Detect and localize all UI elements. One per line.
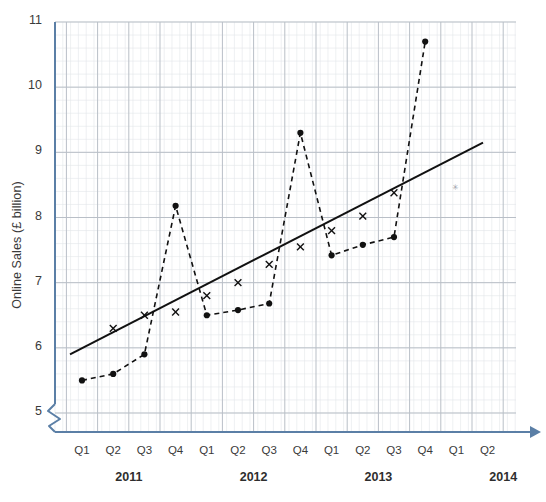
- series-actual-point: [173, 203, 179, 209]
- x-tick-label: Q1: [190, 444, 224, 456]
- series-actual-point: [422, 38, 428, 44]
- y-tick-label: 6: [8, 339, 42, 353]
- x-tick-label: Q3: [252, 444, 286, 456]
- series-trend-x-marker: [391, 189, 398, 196]
- series-actual-point: [297, 130, 303, 136]
- x-axis-year-label: 2011: [94, 470, 164, 484]
- chart-container: Online Sales (£ billion) ✳ 567891011 Q1Q…: [0, 0, 546, 502]
- x-tick-label: Q3: [377, 444, 411, 456]
- series-trend-x-marker: [172, 309, 179, 316]
- x-tick-label: Q3: [127, 444, 161, 456]
- chart-canvas: ✳: [0, 0, 546, 502]
- x-axis-arrow-icon: [530, 426, 541, 438]
- series-actual-point: [360, 242, 366, 248]
- x-tick-label: Q4: [408, 444, 442, 456]
- series-actual-point: [235, 307, 241, 313]
- x-tick-label: Q2: [471, 444, 505, 456]
- y-axis-break-icon: [48, 404, 60, 432]
- x-tick-label: Q1: [439, 444, 473, 456]
- series-actual-point: [391, 234, 397, 240]
- y-tick-label: 5: [8, 404, 42, 418]
- series-actual-point: [110, 371, 116, 377]
- series-trend-x-marker: [266, 261, 273, 268]
- x-axis-year-label: 2014: [468, 470, 538, 484]
- series-actual-point: [79, 377, 85, 383]
- y-tick-label: 9: [8, 143, 42, 157]
- series-actual-point: [204, 312, 210, 318]
- x-tick-label: Q2: [96, 444, 130, 456]
- x-axis-year-label: 2013: [343, 470, 413, 484]
- x-tick-label: Q4: [283, 444, 317, 456]
- series-trend-x-marker: [359, 213, 366, 220]
- trend-line-fitted: [70, 143, 483, 355]
- x-tick-label: Q1: [65, 444, 99, 456]
- series-actual-point: [329, 252, 335, 258]
- y-tick-label: 7: [8, 274, 42, 288]
- x-tick-label: Q4: [159, 444, 193, 456]
- x-axis-year-label: 2012: [219, 470, 289, 484]
- y-tick-label: 8: [8, 209, 42, 223]
- stray-mark: ✳: [452, 183, 459, 192]
- y-tick-label: 10: [8, 78, 42, 92]
- x-tick-label: Q2: [221, 444, 255, 456]
- series-trend-x-marker: [297, 243, 304, 250]
- series-trend-x-marker: [110, 325, 117, 332]
- x-tick-label: Q2: [346, 444, 380, 456]
- x-tick-label: Q1: [315, 444, 349, 456]
- series-actual-point: [141, 351, 147, 357]
- series-actual-point: [266, 300, 272, 306]
- y-tick-label: 11: [8, 13, 42, 27]
- y-axis-title: Online Sales (£ billion): [10, 165, 24, 325]
